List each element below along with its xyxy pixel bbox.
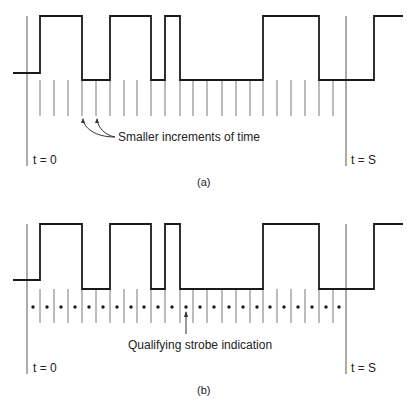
strobe-dot: [156, 305, 159, 308]
t-zero-label-b: t = 0: [33, 362, 57, 374]
annotation-a: Smaller increments of time: [118, 131, 260, 143]
strobe-dot: [142, 305, 145, 308]
strobe-dot: [296, 305, 299, 308]
strobe-dot: [241, 305, 244, 308]
t-s-label-b: t = S: [351, 362, 376, 374]
strobe-dot: [255, 305, 258, 308]
strobe-dot: [337, 305, 340, 308]
t-s-label-a: t = S: [351, 154, 376, 166]
strobe-dot: [268, 305, 271, 308]
strobe-dot: [184, 305, 187, 308]
strobe-dot: [45, 305, 48, 308]
increment-arrows: [81, 118, 115, 137]
signal-waveform: [13, 16, 403, 80]
strobe-arrow: [184, 311, 188, 334]
strobe-dot: [115, 305, 118, 308]
annotation-b: Qualifying strobe indication: [128, 339, 272, 351]
strobe-dot: [282, 305, 285, 308]
strobe-dot: [59, 305, 62, 308]
caption-a: (a): [197, 177, 210, 188]
signal-waveform: [13, 224, 403, 289]
strobe-dot: [310, 305, 313, 308]
strobe-dot: [170, 305, 173, 308]
strobe-dot: [87, 305, 90, 308]
caption-b: (b): [197, 385, 210, 396]
strobe-dot: [227, 305, 230, 308]
t-zero-label-a: t = 0: [33, 154, 57, 166]
strobe-dot: [129, 305, 132, 308]
strobe-dot: [198, 305, 201, 308]
strobe-dot: [212, 305, 215, 308]
strobe-dot: [324, 305, 327, 308]
strobe-dot: [73, 305, 76, 308]
strobe-dot: [31, 305, 34, 308]
strobe-dot: [101, 305, 104, 308]
